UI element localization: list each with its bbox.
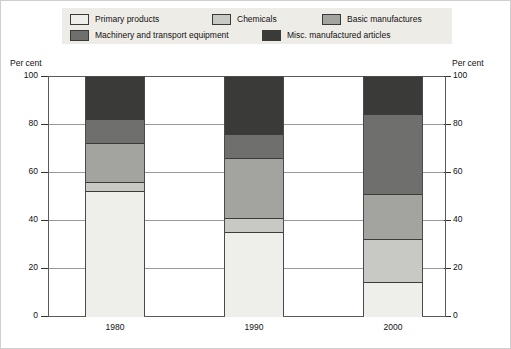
segment-1990-misc[interactable] [225, 77, 283, 135]
y-label-left-80: 80 [14, 119, 38, 128]
y-label-right-20: 20 [453, 263, 477, 272]
tick-left-0 [41, 316, 48, 317]
segment-2000-misc[interactable] [364, 77, 422, 115]
bar-1980[interactable] [85, 76, 145, 316]
segment-1980-chemicals[interactable] [86, 183, 144, 193]
y-label-right-100: 100 [453, 71, 477, 80]
tick-left-20 [41, 268, 48, 269]
y-label-left-0: 0 [14, 311, 38, 320]
legend-item-misc-manufactured-articles: Misc. manufactured articles [262, 30, 390, 41]
tick-left-80 [41, 124, 48, 125]
y-axis-title-left: Per cent [10, 58, 42, 68]
y-label-right-80: 80 [453, 119, 477, 128]
y-label-left-100: 100 [14, 71, 38, 80]
y-axis-title-right: Per cent [452, 58, 484, 68]
x-label-2000: 2000 [353, 322, 433, 332]
segment-2000-machinery[interactable] [364, 115, 422, 194]
legend-swatch-basic-manufactures-icon [322, 14, 341, 25]
legend-item-machinery: Machinery and transport equipment [70, 30, 229, 41]
segment-2000-basic-manufactures[interactable] [364, 195, 422, 241]
segment-1980-machinery[interactable] [86, 120, 144, 144]
legend-swatch-misc-icon [262, 30, 281, 41]
tick-left-40 [41, 220, 48, 221]
legend-swatch-primary-products-icon [70, 14, 89, 25]
tick-left-100 [41, 76, 48, 77]
legend-swatch-chemicals-icon [212, 14, 231, 25]
segment-2000-primary-products[interactable] [364, 283, 422, 317]
x-label-1990: 1990 [214, 322, 294, 332]
legend-row-2: Machinery and transport equipment Misc. … [62, 28, 452, 42]
legend-item-basic-manufactures: Basic manufactures [322, 14, 422, 25]
y-label-left-40: 40 [14, 215, 38, 224]
segment-1990-primary-products[interactable] [225, 233, 283, 317]
y-label-right-0: 0 [453, 311, 477, 320]
legend-label-machinery: Machinery and transport equipment [95, 30, 229, 40]
segment-1990-basic-manufactures[interactable] [225, 159, 283, 219]
legend-label-primary-products: Primary products [95, 14, 159, 24]
segment-1980-misc[interactable] [86, 77, 144, 120]
legend-label-chemicals: Chemicals [237, 14, 277, 24]
x-label-1980: 1980 [75, 322, 155, 332]
legend-swatch-machinery-icon [70, 30, 89, 41]
legend-row-1: Primary products Chemicals Basic manufac… [62, 12, 452, 26]
segment-1980-basic-manufactures[interactable] [86, 144, 144, 182]
segment-1980-primary-products[interactable] [86, 192, 144, 317]
y-label-right-60: 60 [453, 167, 477, 176]
tick-left-60 [41, 172, 48, 173]
bar-2000[interactable] [363, 76, 423, 316]
segment-2000-chemicals[interactable] [364, 240, 422, 283]
legend-item-primary-products: Primary products [70, 14, 159, 25]
bar-1990[interactable] [224, 76, 284, 316]
y-label-right-40: 40 [453, 215, 477, 224]
segment-1990-machinery[interactable] [225, 135, 283, 159]
chart-legend: Primary products Chemicals Basic manufac… [62, 8, 452, 44]
segment-1990-chemicals[interactable] [225, 219, 283, 233]
legend-item-chemicals: Chemicals [212, 14, 277, 25]
y-label-left-20: 20 [14, 263, 38, 272]
legend-label-basic-manufactures: Basic manufactures [347, 14, 422, 24]
y-label-left-60: 60 [14, 167, 38, 176]
legend-label-misc: Misc. manufactured articles [287, 30, 390, 40]
